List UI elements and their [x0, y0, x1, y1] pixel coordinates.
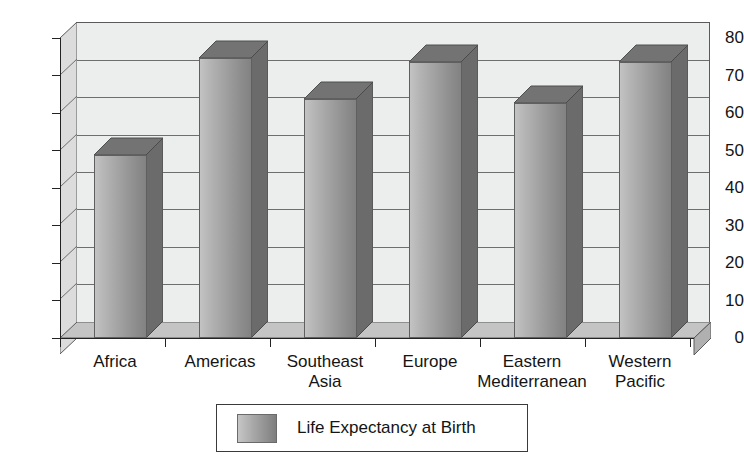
x-tick-6 [690, 338, 691, 347]
y-axis-label-20: 20 [700, 254, 744, 271]
x-axis-label-americas: Americas [168, 352, 272, 372]
plot-depth-ledges [60, 22, 77, 354]
bar-europe[interactable] [409, 45, 478, 338]
x-tick-1 [165, 338, 166, 347]
gridline-60 [77, 97, 709, 98]
bar-africa-side [146, 138, 163, 338]
legend-label: Life Expectancy at Birth [297, 418, 476, 438]
gridline-20 [77, 247, 709, 248]
y-axis-label-40: 40 [700, 179, 744, 196]
bar-southeast-asia[interactable] [304, 82, 373, 338]
y-axis-label-30: 30 [700, 217, 744, 234]
y-tick-70 [52, 75, 61, 76]
y-tick-40 [52, 188, 61, 189]
gridline-50 [77, 135, 709, 136]
bar-africa[interactable] [94, 138, 163, 338]
y-tick-20 [52, 263, 61, 264]
x-axis-label-western-pacific: Western Pacific [588, 352, 692, 392]
bar-western-pacific[interactable] [619, 45, 688, 338]
plot-back-wall [76, 22, 710, 338]
y-tick-30 [52, 225, 61, 226]
y-tick-80 [52, 38, 61, 39]
bar-eastern-mediterranean-side [566, 86, 583, 338]
chart-root: 80 70 60 50 40 30 20 10 0 Africa America… [0, 0, 744, 476]
bar-americas-side [251, 41, 268, 338]
bar-southeast-asia-side [356, 82, 373, 338]
gridline-40 [77, 172, 709, 173]
bar-southeast-asia-front [304, 99, 357, 338]
y-axis-label-10: 10 [700, 292, 744, 309]
x-axis-label-africa: Africa [63, 352, 167, 372]
bar-western-pacific-side [671, 45, 688, 338]
x-axis-label-europe: Europe [378, 352, 482, 372]
bar-eastern-mediterranean-front [514, 103, 567, 338]
bar-europe-side [461, 45, 478, 338]
y-tick-50 [52, 150, 61, 151]
x-tick-5 [585, 338, 586, 347]
y-axis-label-0: 0 [700, 329, 744, 346]
x-tick-4 [480, 338, 481, 347]
gridline-10 [77, 284, 709, 285]
x-tick-2 [270, 338, 271, 347]
legend-swatch-icon [237, 414, 277, 443]
y-axis-label-60: 60 [700, 104, 744, 121]
y-axis-label-50: 50 [700, 142, 744, 159]
gridline-70 [77, 60, 709, 61]
y-axis-label-80: 80 [700, 29, 744, 46]
x-axis-label-southeast-asia: Southeast Asia [273, 352, 377, 392]
bar-europe-front [409, 62, 462, 338]
y-axis-label-70: 70 [700, 67, 744, 84]
bar-americas-front [199, 58, 252, 338]
x-tick-0 [60, 338, 61, 347]
x-tick-3 [375, 338, 376, 347]
gridline-30 [77, 209, 709, 210]
bar-western-pacific-front [619, 62, 672, 338]
y-tick-10 [52, 300, 61, 301]
plot-area: 80 70 60 50 40 30 20 10 0 Africa America… [0, 0, 744, 400]
y-tick-60 [52, 113, 61, 114]
x-axis-label-eastern-mediterranean: Eastern Mediterranean [468, 352, 596, 392]
chart-legend: Life Expectancy at Birth [216, 404, 528, 452]
x-axis-line [60, 338, 694, 339]
bar-americas[interactable] [199, 41, 268, 338]
bar-africa-front [94, 155, 147, 338]
bar-eastern-mediterranean[interactable] [514, 86, 583, 338]
